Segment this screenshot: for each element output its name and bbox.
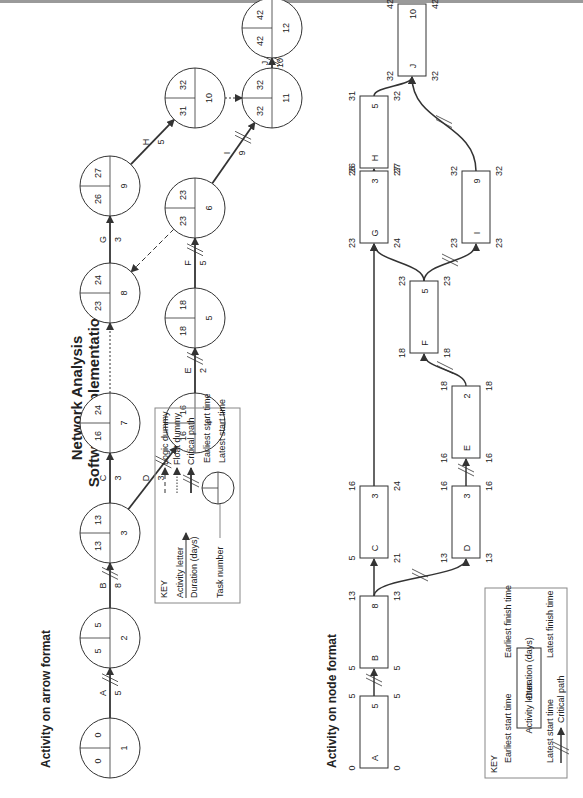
earliest-start-time: 23 [93,301,103,311]
latest-finish-time: 24 [392,481,402,491]
task-number: 7 [119,420,129,425]
event-node-7: 71624 [80,393,140,453]
activity-duration: 5 [370,703,380,708]
key-latest-finish: Latest finish time [545,590,555,658]
event-node-9: 92627 [80,156,140,216]
earliest-start-time: 32 [255,106,265,116]
earliest-start-time: 26 [93,194,103,204]
task-number: 6 [204,205,214,210]
event-node-12: 124242 [242,0,302,58]
critical-path-marker-icon [436,116,452,128]
latest-start-time: 24 [93,275,103,285]
activity-letter: A [370,755,380,761]
earliest-start-time: 5 [347,665,357,670]
activity-duration-C: 3 [113,475,123,480]
latest-start-time: 23 [494,238,504,248]
earliest-start-time: 32 [385,71,395,81]
aon-key: KEYEarliest start timeEarliest finish ti… [485,585,569,778]
task-number: 12 [281,23,291,33]
earliest-start-time: 18 [397,348,407,358]
activity-letter: H [370,155,380,162]
earliest-finish-time: 16 [347,481,357,491]
activity-letter-B: B [98,582,108,588]
latest-start-time: 5 [93,622,103,627]
task-number: 2 [119,635,129,640]
earliest-finish-time: 31 [347,91,357,101]
latest-start-time: 42 [255,10,265,20]
latest-start-time: 5 [392,665,402,670]
earliest-start-time: 5 [93,648,103,653]
earliest-start-time: 26 [347,163,357,173]
earliest-start-time: 23 [347,238,357,248]
task-number: 10 [204,93,214,103]
earliest-start-time: 0 [93,758,103,763]
task-number: 5 [204,315,214,320]
activity-node-I: I923322332 [449,166,504,248]
key-title: KEY [159,580,169,598]
earliest-start-time: 13 [93,541,103,551]
earliest-start-time: 13 [439,553,449,563]
latest-finish-time: 23 [442,276,452,286]
earliest-finish-time: 23 [397,276,407,286]
key-earliest-finish: Earliest finish time [503,585,513,658]
aon-heading: Activity on node format [325,634,339,768]
task-number: 3 [119,530,129,535]
aon-network: A50505B8513513C35162124D313161316E216181… [347,0,504,771]
key-title: KEY [489,755,499,773]
key-earliest-start: Earliest start time [503,693,513,763]
dependency-I-J [412,77,476,171]
latest-start-time: 21 [392,553,402,563]
key-critical-path: Critical path [186,417,196,465]
latest-start-time: 27 [93,168,103,178]
critical-path-marker-icon [235,131,251,143]
activity-duration: 3 [462,493,472,498]
logic-dummy-6-8 [131,229,174,272]
latest-finish-time: 13 [392,591,402,601]
latest-start-time: 24 [93,405,103,415]
activity-duration-B: 8 [113,583,123,588]
activity-letter: I [472,232,482,235]
key-logic-dummy: Logic dummy [160,411,170,465]
task-number: 8 [119,290,129,295]
event-node-3: 31313 [80,503,140,563]
earliest-start-time: 42 [255,36,265,46]
latest-start-time: 13 [484,553,494,563]
key-float-dummy: Float dummy [172,412,182,465]
key-latest-start: Latest start time [545,699,555,763]
activity-letter: E [462,445,472,451]
latest-start-time: 27 [392,163,402,173]
activity-letter: D [462,544,472,551]
task-number: 11 [281,93,291,102]
earliest-start-time: 5 [347,555,357,560]
latest-start-time: 0 [392,765,402,770]
earliest-finish-time: 16 [439,481,449,491]
activity-duration-G: 3 [113,237,123,242]
activity-duration: 5 [370,103,380,108]
earliest-finish-time: 42 [385,0,395,9]
activity-duration: 8 [370,603,380,608]
activity-letter-A: A [98,690,108,696]
task-number: 1 [119,745,129,750]
event-node-10: 103132 [165,68,225,128]
activity-letter-H: H [141,139,151,146]
latest-start-time: 32 [178,80,188,90]
activity-letter-F: F [183,260,193,266]
activity-node-A: A50505 [347,693,402,770]
latest-finish-time: 5 [392,693,402,698]
latest-start-time: 0 [93,732,103,737]
latest-start-time: 16 [484,453,494,463]
activity-duration-I: 9 [237,150,247,155]
latest-finish-time: 32 [494,166,504,176]
aoa-network: A5B8C3D3E2F5G3H5I9J101002553131371624823… [80,0,302,778]
activity-letter-D: D [141,474,151,481]
latest-start-time: 32 [255,80,265,90]
activity-arrow-I [212,123,255,184]
latest-finish-time: 18 [484,381,494,391]
latest-finish-time: 32 [392,91,402,101]
activity-node-J: J1032423242 [385,0,440,81]
earliest-finish-time: 32 [449,166,459,176]
event-node-8: 82324 [80,263,140,323]
activity-duration: 3 [370,178,380,183]
activity-duration-E: 2 [198,368,208,373]
latest-start-time: 24 [392,238,402,248]
